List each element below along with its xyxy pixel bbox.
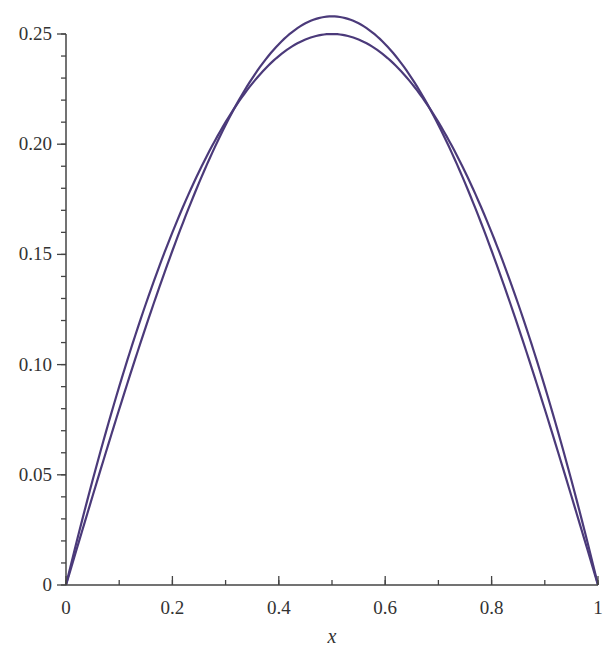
x-tick-label: 0.6: [373, 597, 397, 618]
x-axis-label: x: [327, 625, 337, 647]
x-tick-label: 0.4: [267, 597, 291, 618]
x-tick-label: 0: [61, 597, 71, 618]
y-axis-ticks: 00.050.100.150.200.25: [19, 23, 66, 595]
y-tick-label: 0.15: [19, 243, 52, 264]
axes: [66, 34, 598, 585]
x-tick-label: 0.8: [480, 597, 504, 618]
y-tick-label: 0.10: [19, 354, 52, 375]
series-line: [66, 34, 598, 585]
x-tick-label: 0.2: [161, 597, 185, 618]
y-tick-label: 0.20: [19, 133, 52, 154]
plot-lines: [66, 16, 598, 585]
x-tick-label: 1: [593, 597, 603, 618]
y-tick-label: 0.25: [19, 23, 52, 44]
line-chart: 00.20.40.60.81 00.050.100.150.200.25 x: [0, 0, 607, 662]
y-tick-label: 0: [43, 574, 53, 595]
y-tick-label: 0.05: [19, 464, 52, 485]
x-axis-ticks: 00.20.40.60.81: [61, 576, 603, 618]
